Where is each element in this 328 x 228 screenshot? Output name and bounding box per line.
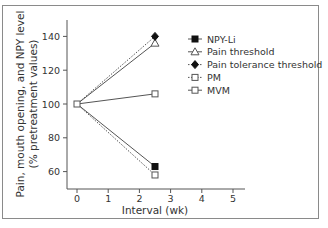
x-tick-label: 5: [230, 193, 236, 204]
filled-diamond-marker: [152, 32, 159, 40]
plot-series: [74, 32, 159, 178]
y-tick-label: 120: [42, 65, 60, 76]
y-ticks: 6080100120140: [42, 31, 67, 177]
x-ticks: 012345: [74, 189, 236, 204]
legend-item: Pain tolerance threshold: [188, 59, 322, 70]
series-npy-li: [77, 104, 158, 170]
y-tick-label: 140: [42, 31, 60, 42]
x-tick-label: 4: [199, 193, 205, 204]
x-tick-label: 2: [136, 193, 142, 204]
y-axis-label-line1: Pain, mouth opening, and NPY level: [14, 11, 26, 198]
x-tick-label: 0: [74, 193, 80, 204]
filled-square-marker: [152, 164, 158, 170]
y-tick-label: 100: [42, 99, 60, 110]
open-square-marker: [152, 91, 158, 97]
x-tick-label: 1: [105, 193, 111, 204]
series-line: [77, 104, 155, 167]
series-pm: [77, 104, 158, 178]
filled-square-marker: [192, 36, 198, 42]
legend-item: Pain threshold: [188, 46, 275, 57]
open-square-marker: [152, 172, 158, 178]
y-axis-label-line2: (% pretreatment values): [27, 40, 39, 169]
y-tick-label: 60: [48, 166, 60, 177]
series-line: [77, 104, 155, 175]
legend-label: PM: [207, 72, 221, 83]
legend-label: NPY-Li: [207, 34, 236, 45]
x-tick-label: 3: [168, 193, 174, 204]
legend-item: PM: [188, 72, 221, 83]
legend: NPY-LiPain thresholdPain tolerance thres…: [188, 34, 322, 96]
y-tick-label: 80: [48, 132, 60, 143]
series-pain-tolerance-threshold: [77, 32, 159, 104]
open-square-marker: [192, 87, 198, 93]
series-line: [77, 36, 155, 104]
series-line: [77, 43, 155, 104]
legend-item: NPY-Li: [188, 34, 236, 45]
legend-label: Pain threshold: [207, 46, 275, 57]
legend-label: MVM: [207, 85, 230, 96]
legend-item: MVM: [188, 85, 230, 96]
x-axis-label: Interval (wk): [122, 204, 188, 216]
series-pain-threshold: [77, 39, 159, 104]
open-square-marker: [74, 101, 80, 107]
chart-svg: 6080100120140 012345 Pain, mouth opening…: [0, 0, 328, 228]
legend-label: Pain tolerance threshold: [207, 59, 322, 70]
open-square-marker: [192, 74, 198, 80]
filled-diamond-marker: [192, 61, 199, 69]
